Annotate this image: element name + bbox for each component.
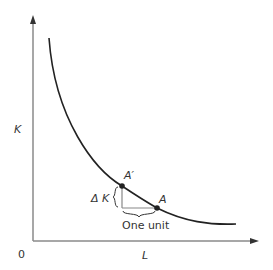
delta-k-brace-icon	[113, 187, 118, 207]
point-a-label: A	[159, 194, 167, 205]
x-axis-arrow-icon	[250, 238, 259, 244]
y-axis-arrow-icon	[30, 15, 36, 24]
y-axis-label: K	[14, 124, 21, 135]
x-axis-label: L	[142, 250, 148, 261]
origin-label: 0	[18, 249, 25, 260]
point-a	[154, 205, 160, 211]
one-unit-label: One unit	[122, 220, 169, 231]
isoquant-curve	[49, 38, 236, 224]
one-unit-brace-icon	[123, 211, 155, 217]
delta-k-label: Δ K	[91, 193, 109, 204]
point-a-prime-label: A′	[124, 170, 134, 181]
point-a-prime	[119, 183, 125, 189]
